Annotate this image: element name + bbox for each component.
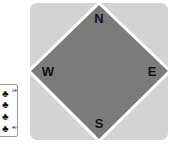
card-corner-index: 4♣ bbox=[12, 89, 17, 93]
club-icon: ♣ bbox=[2, 100, 9, 110]
seat-east-label[interactable]: E bbox=[148, 65, 157, 78]
card-corner-index: 4♣ bbox=[12, 125, 17, 129]
seat-west-label[interactable]: W bbox=[42, 65, 54, 78]
seat-south-label[interactable]: S bbox=[95, 117, 104, 130]
club-icon: ♣ bbox=[2, 112, 9, 122]
club-icon: ♣ bbox=[2, 124, 9, 134]
seat-north-label[interactable]: N bbox=[94, 12, 103, 25]
club-icon: ♣ bbox=[2, 89, 9, 99]
playing-card-clubs[interactable]: ♣ ♣ ♣ ♣ 4♣ 4♣ bbox=[0, 84, 18, 137]
